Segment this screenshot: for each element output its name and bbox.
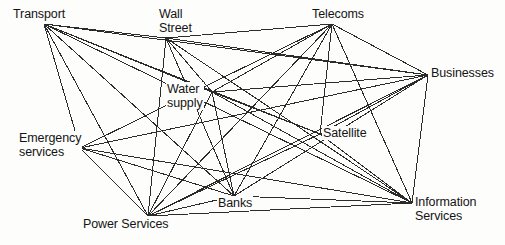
node-water[interactable]: Watersupply [166,82,204,110]
node-satellite[interactable]: Satellite [322,126,368,140]
node-water-label-line-2: supply [167,96,203,110]
interdependency-network-diagram: TransportWallStreetTelecomsBusinessesWat… [0,0,505,245]
edge-power-info [148,203,412,216]
edge-transport-power [44,24,148,216]
node-banks[interactable]: Banks [217,196,253,210]
edge-water-power [148,92,212,216]
edge-transport-banks [44,24,234,196]
node-transport[interactable]: Transport [12,7,66,21]
node-satellite-label-line-1: Satellite [323,126,367,140]
node-wall_street-label-line-1: Wall [159,7,192,21]
node-businesses[interactable]: Businesses [430,66,495,80]
node-banks-label-line-1: Banks [218,196,252,210]
edge-emergency-businesses [80,75,428,148]
node-wall_street[interactable]: WallStreet [158,7,193,35]
edge-water-businesses [212,75,428,92]
edge-telecoms-businesses [332,24,428,75]
edge-telecoms-power [148,24,332,216]
node-telecoms[interactable]: Telecoms [311,7,365,21]
edge-emergency-banks [80,148,234,196]
edge-banks-info [234,196,412,203]
node-emergency-label-line-2: services [19,145,81,159]
node-info-label-line-2: Services [415,209,476,223]
node-info-label-line-1: Information [415,195,476,209]
edge-transport-emergency [44,24,80,148]
edge-satellite-info [320,134,412,203]
node-power-label-line-1: Power Services [83,217,168,231]
edge-water-satellite [212,92,320,134]
node-emergency-label-line-1: Emergency [19,131,81,145]
edge-telecoms-water [212,24,332,92]
edge-telecoms-satellite [320,24,332,134]
node-transport-label-line-1: Transport [13,7,65,21]
edge-businesses-info [412,75,428,203]
node-businesses-label-line-1: Businesses [431,66,494,80]
node-telecoms-label-line-1: Telecoms [312,7,364,21]
node-emergency[interactable]: Emergencyservices [18,131,82,159]
node-wall_street-label-line-2: Street [159,21,192,35]
node-water-label-line-1: Water [167,82,203,96]
node-power[interactable]: Power Services [82,217,169,231]
node-info[interactable]: InformationServices [414,195,477,223]
edge-wall_street-power [148,38,166,216]
